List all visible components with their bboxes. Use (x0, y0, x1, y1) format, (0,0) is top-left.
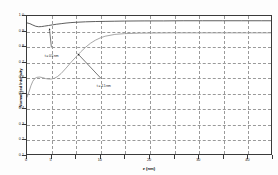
x-tick-label: 40 (245, 158, 249, 162)
x-tick-mark (174, 155, 175, 159)
x-tick-label: 0 (25, 158, 27, 162)
annotation-lower-label: t = 1.5 nm (97, 84, 111, 88)
x-tick-mark (223, 155, 224, 159)
x-tick-mark (75, 155, 76, 159)
x-tick-label: 10 (98, 158, 102, 162)
annotation-upper-label: t = 0.5 nm (45, 54, 59, 58)
figure-container: 0.10.20.30.40.50.60.70.80.91.0 Normalize… (0, 0, 278, 175)
y-axis-title: Normalized Intensity (18, 68, 23, 107)
x-axis-ticks: 0510203040 (26, 155, 272, 175)
curve-upper-curve (27, 21, 271, 27)
x-tick-mark (124, 155, 125, 159)
x-tick-label: 20 (147, 158, 151, 162)
x-tick-label: 30 (196, 158, 200, 162)
plot-area: t = 0.5 nmt = 1.5 nm (26, 15, 272, 155)
curve-lower-curve (27, 33, 271, 97)
x-tick-mark (272, 155, 273, 159)
data-curves (27, 16, 271, 154)
x-tick-label: 5 (50, 158, 52, 162)
x-axis-title: z (nm) (26, 166, 272, 171)
